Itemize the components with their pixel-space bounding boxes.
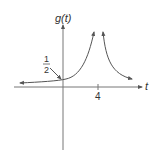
fraction-numerator: 1 bbox=[44, 55, 49, 64]
fraction-denominator: 2 bbox=[44, 66, 49, 75]
x-axis-label: t bbox=[145, 81, 148, 92]
function-graph bbox=[0, 0, 155, 159]
half-pointer-arrow bbox=[50, 68, 61, 79]
y-axis-label: g(t) bbox=[55, 13, 72, 24]
x-tick-label-4: 4 bbox=[95, 92, 101, 102]
right-branch-curve bbox=[103, 32, 132, 79]
